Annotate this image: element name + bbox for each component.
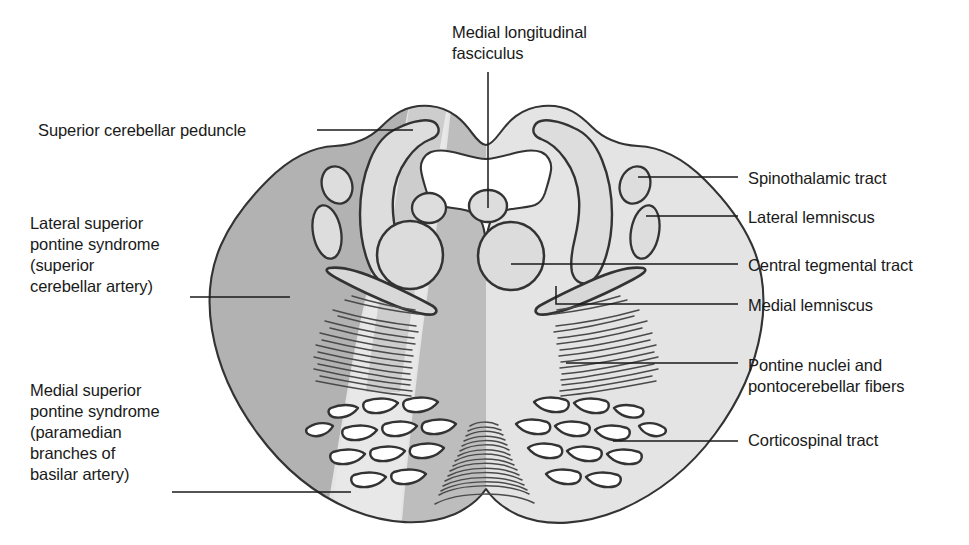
mlf-left-paramedian-oval — [412, 193, 446, 223]
label-central-tegmental-tract: Central tegmental tract — [748, 255, 913, 276]
label-lateral-lemniscus: Lateral lemniscus — [748, 207, 875, 228]
label-medial-lemniscus: Medial lemniscus — [748, 295, 873, 316]
label-pontine-nuclei-and-pontocerebellar-fibers: Pontine nuclei and pontocerebellar fiber… — [748, 355, 904, 397]
label-superior-cerebellar-peduncle: Superior cerebellar peduncle — [38, 120, 246, 141]
diagram-stage: Medial longitudinal fasciculus Superior … — [0, 0, 969, 545]
label-lateral-superior-pontine-syndrome: Lateral superior pontine syndrome (super… — [30, 213, 160, 297]
label-corticospinal-tract: Corticospinal tract — [748, 430, 878, 451]
label-medial-superior-pontine-syndrome: Medial superior pontine syndrome (parame… — [30, 380, 160, 485]
label-medial-longitudinal-fasciculus: Medial longitudinal fasciculus — [452, 22, 587, 64]
label-spinothalamic-tract: Spinothalamic tract — [748, 168, 886, 189]
central-tegmental-tract-left — [377, 221, 443, 289]
central-tegmental-tract-right — [478, 222, 544, 290]
